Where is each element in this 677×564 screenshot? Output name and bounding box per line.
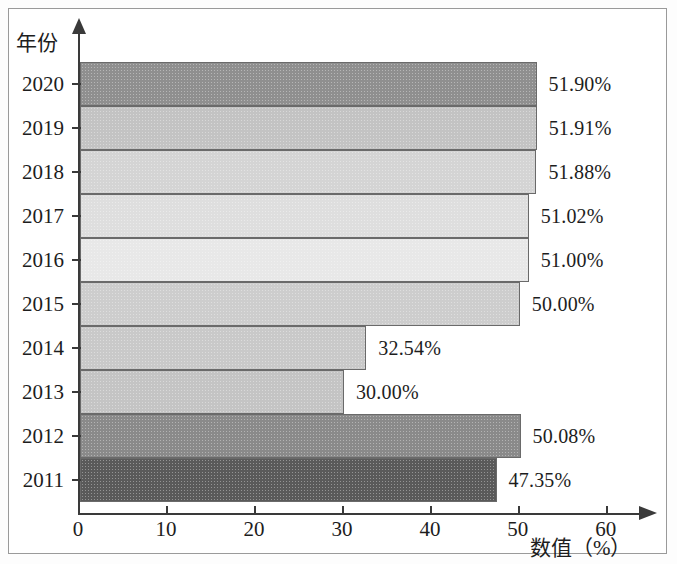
bar-value-label: 51.91% [549,117,612,140]
y-axis-tick-mark [72,303,81,305]
y-axis-tick-label: 2016 [0,238,78,282]
x-axis-tick-mark [518,506,520,514]
bar-row: 32.54% [80,326,660,370]
bar-value-label: 51.88% [548,161,611,184]
bar[interactable] [80,414,521,458]
x-axis-tick-label: 0 [73,517,84,542]
x-axis-tick-mark [430,506,432,514]
bar-row: 47.35% [80,458,660,502]
y-axis-tick-label: 2012 [0,414,78,458]
x-axis-tick-label: 30 [331,517,352,542]
bar-value-label: 51.02% [541,205,604,228]
bar-row: 51.90% [80,62,660,106]
bar-row: 50.00% [80,282,660,326]
bar-row: 50.08% [80,414,660,458]
bar[interactable] [80,282,520,326]
y-axis-tick-mark [72,127,81,129]
y-axis-tick-mark [72,435,81,437]
x-axis-tick-mark [78,506,80,514]
bar-row: 30.00% [80,370,660,414]
bar-chart-figure: 年份 2020201920182017201620152014201320122… [0,0,677,564]
y-axis-tick-mark [72,83,81,85]
y-axis-tick-mark [72,479,81,481]
y-axis-tick-label: 2020 [0,62,78,106]
bar-value-label: 30.00% [356,381,419,404]
bar[interactable] [80,106,537,150]
bar-value-label: 50.08% [533,425,596,448]
y-axis-tick-label: 2018 [0,150,78,194]
x-axis-ticks [0,506,677,516]
y-axis-title: 年份 [16,26,58,56]
y-axis-tick-label: 2013 [0,370,78,414]
y-axis-tick-label: 2014 [0,326,78,370]
bar-row: 51.88% [80,150,660,194]
bar-series-group: 51.90%51.91%51.88%51.02%51.00%50.00%32.5… [80,62,660,502]
y-axis-tick-mark [72,215,81,217]
bar-value-label: 51.90% [549,73,612,96]
y-axis-tick-mark [72,391,81,393]
y-axis-tick-label: 2015 [0,282,78,326]
bar[interactable] [80,370,344,414]
y-axis-tick-mark [72,171,81,173]
bar-row: 51.00% [80,238,660,282]
y-axis-tick-labels: 2020201920182017201620152014201320122011 [0,62,78,502]
y-axis-tick-label: 2019 [0,106,78,150]
bar-value-label: 47.35% [509,469,572,492]
bar[interactable] [80,150,536,194]
bar[interactable] [80,194,529,238]
x-axis-tick-mark [606,506,608,514]
bar-row: 51.91% [80,106,660,150]
bar[interactable] [80,238,529,282]
x-axis-tick-mark [342,506,344,514]
bar-value-label: 51.00% [541,249,604,272]
bar[interactable] [80,458,497,502]
y-axis-tick-label: 2011 [0,458,78,502]
bar[interactable] [80,326,366,370]
x-axis-tick-mark [254,506,256,514]
y-axis-tick-label: 2017 [0,194,78,238]
x-axis-tick-label: 50 [507,517,528,542]
y-axis-tick-mark [72,259,81,261]
bar-row: 51.02% [80,194,660,238]
bar[interactable] [80,62,537,106]
x-axis-tick-label: 40 [419,517,440,542]
y-axis-tick-mark [72,347,81,349]
x-axis-title: 数值（%） [530,531,632,561]
bar-value-label: 32.54% [378,337,441,360]
x-axis-tick-label: 20 [243,517,264,542]
bar-value-label: 50.00% [532,293,595,316]
x-axis-tick-label: 10 [155,517,176,542]
x-axis-tick-mark [166,506,168,514]
